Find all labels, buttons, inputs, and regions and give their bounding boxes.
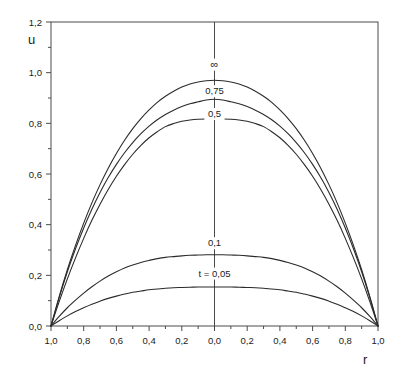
- x-axis-tick-label: 0,8: [339, 335, 352, 346]
- y-axis-tick-label: 1,2: [29, 17, 42, 28]
- x-axis-tick-label: 0,2: [175, 335, 188, 346]
- curve-label-3: 0,5: [208, 108, 221, 119]
- x-axis-tick-label: 0,0: [208, 335, 221, 346]
- x-axis-tick-label: 1,0: [44, 335, 57, 346]
- x-axis-tick-label: 0,6: [306, 335, 319, 346]
- velocity-profile-plot: 0,00,20,40,60,81,01,21,00,80,60,40,20,00…: [0, 0, 406, 378]
- y-axis-tick-label: 0,2: [29, 270, 42, 281]
- y-axis-tick-label: 0,4: [29, 219, 42, 230]
- x-axis-tick-label: 0,4: [273, 335, 286, 346]
- curve-label-2: 0,75: [205, 85, 224, 96]
- y-axis-tick-label: 1,0: [29, 67, 42, 78]
- curve-label-1: ∞: [211, 58, 219, 70]
- y-axis-tick-label: 0,6: [29, 169, 42, 180]
- x-axis-tick-label: 0,4: [142, 335, 155, 346]
- y-axis-tick-label: 0,0: [29, 321, 42, 332]
- x-axis-tick-label: 0,6: [110, 335, 123, 346]
- x-axis-tick-label: 0,8: [77, 335, 90, 346]
- axis-layer: 0,00,20,40,60,81,01,21,00,80,60,40,20,00…: [29, 17, 385, 347]
- x-axis-tick-label: 0,2: [241, 335, 254, 346]
- chart-figure: 0,00,20,40,60,81,01,21,00,80,60,40,20,00…: [0, 0, 406, 378]
- x-axis-tick-label: 1,0: [371, 335, 384, 346]
- y-axis-tick-label: 0,8: [29, 118, 42, 129]
- curve-label-5: t = 0,05: [199, 268, 231, 279]
- y-axis-label: u: [28, 32, 35, 47]
- x-axis-label: r: [363, 352, 368, 367]
- curve-label-4: 0,1: [208, 237, 221, 248]
